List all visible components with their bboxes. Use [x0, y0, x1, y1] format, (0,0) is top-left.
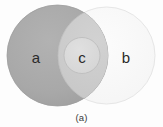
- venn-figure: a c b (a): [0, 0, 163, 127]
- set-b-label: b: [122, 49, 130, 66]
- set-a-label: a: [32, 49, 41, 66]
- figure-caption: (a): [75, 112, 87, 123]
- inner-c-label: c: [78, 49, 86, 66]
- venn-diagram-svg: a c b (a): [0, 0, 163, 127]
